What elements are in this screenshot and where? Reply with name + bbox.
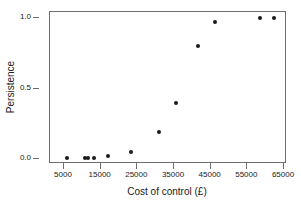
x-axis: Cost of control (£) 50001500025000350004…: [0, 163, 301, 210]
x-axis-tick: [100, 163, 101, 169]
plot-frame: [49, 11, 286, 163]
y-axis-tick-label: 1.0: [20, 13, 31, 21]
data-point: [258, 16, 262, 20]
x-axis-tick-label: 35000: [162, 171, 184, 179]
plot-data-area: [50, 12, 285, 162]
x-axis-tick: [246, 163, 247, 169]
x-axis-tick-label: 45000: [199, 171, 221, 179]
data-point: [196, 44, 200, 48]
y-axis-tick-label: 0.0: [20, 154, 31, 162]
x-axis-tick: [283, 163, 284, 169]
x-axis-title: Cost of control (£): [127, 186, 206, 197]
x-axis-tick: [173, 163, 174, 169]
data-point: [92, 156, 96, 160]
data-point: [174, 101, 178, 105]
data-point: [65, 156, 69, 160]
data-point: [86, 156, 90, 160]
scatter-plot-figure: Persistence 0.00.51.0 Cost of control (£…: [0, 0, 301, 210]
x-axis-tick: [63, 163, 64, 169]
data-point: [213, 20, 217, 24]
y-axis-title: Persistence: [5, 27, 16, 147]
x-axis-tick-label: 5000: [54, 171, 72, 179]
y-axis-tick: [33, 17, 39, 18]
y-axis-tick: [33, 158, 39, 159]
data-point: [157, 130, 161, 134]
data-point: [272, 16, 276, 20]
y-axis-tick-label: 0.5: [20, 84, 31, 92]
x-axis-tick-label: 65000: [272, 171, 294, 179]
data-point: [129, 150, 133, 154]
x-axis-tick-label: 25000: [125, 171, 147, 179]
x-axis-tick-label: 15000: [89, 171, 111, 179]
y-axis-tick: [33, 88, 39, 89]
data-point: [106, 154, 110, 158]
x-axis-tick-label: 55000: [235, 171, 257, 179]
x-axis-tick: [136, 163, 137, 169]
x-axis-tick: [210, 163, 211, 169]
